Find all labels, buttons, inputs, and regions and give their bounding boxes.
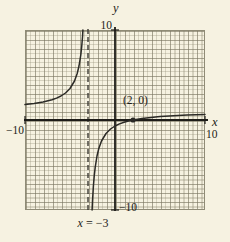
curve-left-branch xyxy=(25,30,83,105)
x-min-tick-label: −10 xyxy=(6,125,24,137)
plot-canvas xyxy=(0,0,230,242)
x-max-tick-label: 10 xyxy=(206,129,218,141)
function-graph-figure: y 10 −10 −10 x 10 (2, 0) x = −3 xyxy=(0,0,230,242)
y-min-tick-label: −10 xyxy=(119,202,137,214)
x-axis-letter-label: x xyxy=(212,116,218,129)
y-max-tick-label: 10 xyxy=(94,20,112,32)
marked-point-dot xyxy=(130,117,135,122)
asymptote-value: = −3 xyxy=(83,216,109,230)
asymptote-equation-label: x = −3 xyxy=(68,217,118,229)
curve-right-branch xyxy=(92,115,205,211)
marked-point-label: (2, 0) xyxy=(123,95,148,107)
y-axis-letter-label: y xyxy=(113,2,119,15)
